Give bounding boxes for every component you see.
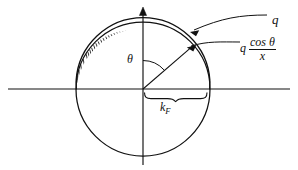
fermi-sphere-diagram (0, 0, 298, 170)
label-q-cos-theta: q cos θ x (240, 36, 276, 62)
label-theta: θ (127, 52, 133, 67)
label-k-f-subscript: F (165, 106, 170, 116)
label-q: q (272, 12, 279, 28)
leader-line-qcos (191, 42, 240, 46)
fraction-numerator: cos θ (249, 36, 276, 50)
fraction-denominator: x (249, 50, 276, 63)
label-k-f: kF (160, 100, 171, 116)
hatch-lines (77, 31, 199, 91)
arrowhead-icon-q (190, 30, 199, 36)
up-arrow-icon (139, 7, 146, 16)
theta-arc (143, 61, 164, 71)
curly-brace-icon (145, 93, 208, 102)
leader-line-q (194, 15, 267, 30)
fraction: cos θ x (249, 36, 276, 62)
label-q-prefix: q (240, 41, 246, 56)
radius-line (143, 45, 194, 89)
